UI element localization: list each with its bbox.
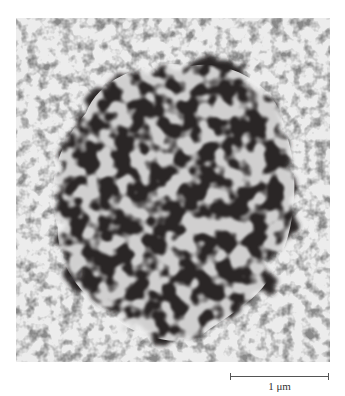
- scale-bar-label: 1 μm: [230, 380, 329, 392]
- scale-bar: [230, 376, 329, 377]
- electron-micrograph: [16, 18, 330, 362]
- micrograph-image: [16, 18, 330, 362]
- figure: 1 μm: [0, 0, 345, 396]
